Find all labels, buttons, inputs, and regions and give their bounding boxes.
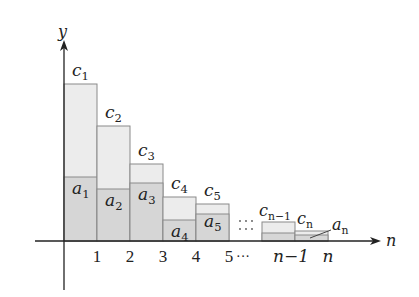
tick-label-1: 1 bbox=[93, 247, 102, 266]
a-region bbox=[295, 235, 328, 241]
tick-label-n: n bbox=[323, 246, 334, 266]
tick-label-4: 4 bbox=[192, 247, 201, 266]
tick-label-5: 5 bbox=[225, 247, 234, 266]
bar-1 bbox=[64, 84, 97, 241]
c-label-2: c2 bbox=[105, 102, 122, 125]
tick-label-n−1: n−1 bbox=[273, 246, 309, 266]
c-label-1: c1 bbox=[72, 60, 89, 83]
c-label-5: c5 bbox=[204, 180, 221, 203]
bar-n-1 bbox=[262, 222, 295, 241]
y-axis-label: y bbox=[57, 22, 68, 41]
ellipsis-dots bbox=[239, 220, 253, 230]
a-region bbox=[262, 233, 295, 241]
c-label-n: cn bbox=[297, 209, 313, 231]
c-label-3: c3 bbox=[138, 140, 155, 163]
tick-label-2: 2 bbox=[126, 247, 135, 266]
a-label-n: an bbox=[332, 215, 349, 237]
c-label-n-1: cn−1 bbox=[259, 201, 291, 223]
bar-2 bbox=[97, 126, 130, 241]
tick-label-3: 3 bbox=[159, 247, 168, 266]
x-axis-label: n bbox=[386, 231, 396, 250]
c-label-4: c4 bbox=[171, 173, 188, 196]
axis-ellipsis: ··· bbox=[236, 249, 250, 264]
rectangle-sum-diagram: c1a1c2a2c3a3c4a4c5a5cn−1cnanyn12345n−1n·… bbox=[0, 0, 419, 297]
